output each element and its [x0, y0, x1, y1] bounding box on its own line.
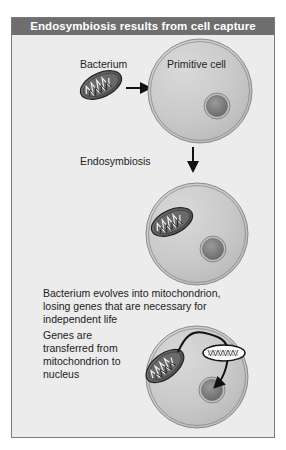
primitive-cell-label: Primitive cell	[167, 58, 226, 71]
primitive-cell	[148, 39, 252, 143]
endosymbiosis-label: Endosymbiosis	[80, 155, 151, 168]
evolution-caption: Bacterium evolves into mitochondrion, lo…	[43, 287, 243, 326]
diagram-art	[0, 0, 286, 450]
dna-segment-icon	[203, 345, 245, 361]
bacterium-label: Bacterium	[80, 58, 127, 71]
nucleus	[204, 93, 230, 119]
nucleus	[200, 236, 226, 262]
gene-transfer-caption: Genes are transferred from mitochondrion…	[43, 329, 143, 381]
